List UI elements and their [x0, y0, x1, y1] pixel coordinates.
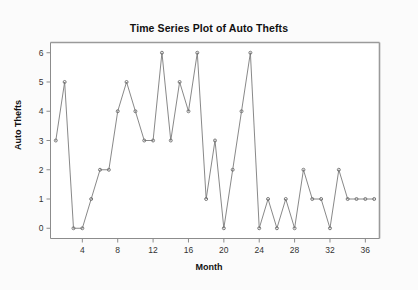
- x-axis-ticks: 4812162024283236: [80, 239, 370, 255]
- chart-figure: Time Series Plot of Auto Thefts Auto The…: [0, 0, 418, 290]
- svg-text:36: 36: [361, 245, 371, 255]
- svg-text:32: 32: [325, 245, 335, 255]
- svg-text:2: 2: [39, 165, 44, 175]
- svg-text:20: 20: [219, 245, 229, 255]
- svg-text:24: 24: [254, 245, 264, 255]
- svg-text:6: 6: [39, 48, 44, 58]
- svg-text:12: 12: [148, 245, 158, 255]
- svg-text:4: 4: [39, 106, 44, 116]
- svg-text:5: 5: [39, 77, 44, 87]
- svg-text:16: 16: [184, 245, 194, 255]
- svg-text:3: 3: [39, 136, 44, 146]
- svg-text:8: 8: [115, 245, 120, 255]
- svg-text:0: 0: [39, 223, 44, 233]
- y-axis-ticks: 0123456: [39, 48, 51, 234]
- svg-text:28: 28: [290, 245, 300, 255]
- svg-text:1: 1: [39, 194, 44, 204]
- svg-text:4: 4: [80, 245, 85, 255]
- time-series-plot: 4812162024283236 0123456: [0, 0, 418, 290]
